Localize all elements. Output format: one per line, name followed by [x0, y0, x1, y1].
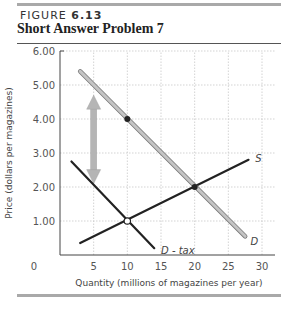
equilibrium-point [192, 184, 198, 190]
y-tick-label: 4.00 [33, 114, 55, 125]
y-axis-label: Price (dollars per magazines) [4, 87, 14, 218]
arrow-down-icon [87, 170, 101, 184]
y-tick-label: 5.00 [33, 80, 55, 91]
y-tick-label: 6.00 [33, 46, 55, 57]
x-tick-label: 5 [90, 261, 96, 272]
x-tick-label: 30 [256, 261, 269, 272]
bottom-border-bar [17, 294, 281, 297]
arrow-up-icon [87, 95, 101, 109]
y-tick-label: 1.00 [33, 216, 55, 227]
demand-minus-tax-curve [71, 162, 154, 249]
curve-label: S [255, 153, 262, 164]
x-tick-label: 10 [121, 261, 134, 272]
curve-label: D [251, 236, 259, 247]
x-tick-label: 15 [155, 261, 168, 272]
curve-label: D - tax [161, 245, 195, 256]
demand-curve [80, 71, 245, 236]
x-tick-label: 25 [222, 261, 235, 272]
x-axis-label: Quantity (millions of magazines per year… [75, 278, 262, 288]
chart: 1.002.003.004.005.006.00051015202530Quan… [0, 0, 299, 311]
y-tick-label: 3.00 [33, 148, 55, 159]
supply-curve [80, 160, 248, 243]
double-arrow-shaft [91, 105, 97, 173]
x-tick-label: 20 [188, 261, 201, 272]
x-tick-label: 0 [31, 261, 37, 272]
equilibrium-point [124, 116, 130, 122]
y-tick-label: 2.00 [33, 182, 55, 193]
equilibrium-point-open [124, 218, 130, 224]
